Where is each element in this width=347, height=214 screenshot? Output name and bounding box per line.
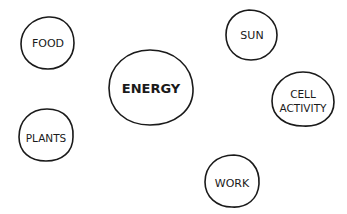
cell-activity-label-line2: ACTIVITY [280,102,328,114]
cell-activity-label-line1: CELL [290,88,316,100]
plants-label: PLANTS [26,132,67,144]
node-cell-activity: CELL ACTIVITY [272,72,334,126]
work-label: WORK [215,177,250,190]
node-sun: SUN [226,10,277,60]
node-work: WORK [205,155,259,207]
sun-label: SUN [240,29,263,42]
food-label: FOOD [32,37,64,50]
node-plants: PLANTS [19,109,73,161]
node-energy: ENERGY [109,50,193,125]
concept-map: FOOD SUN ENERGY CELL ACTIVITY PLANTS WOR… [0,0,347,214]
energy-label: ENERGY [122,81,181,96]
node-food: FOOD [21,17,74,69]
